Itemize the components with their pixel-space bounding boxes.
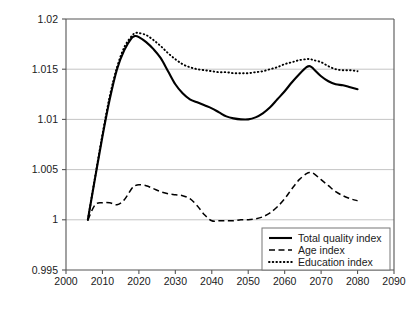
data-series-group — [88, 33, 358, 222]
legend-label-total-quality-index: Total quality index — [298, 232, 382, 244]
y-tick-label: 1.005 — [32, 163, 58, 175]
x-tick-label: 2050 — [237, 275, 261, 287]
x-axis-ticks: 2000201020202030204020502060207020802090 — [54, 270, 406, 287]
x-tick-label: 2000 — [54, 275, 78, 287]
legend-label-age-index: Age index — [298, 244, 345, 256]
y-tick-label: 1.015 — [32, 63, 58, 75]
x-tick-label: 2060 — [273, 275, 297, 287]
x-tick-label: 2070 — [309, 275, 333, 287]
chart-container: 0.99511.0051.011.0151.02 200020102020203… — [0, 0, 417, 313]
series-line-total-quality-index — [88, 36, 358, 220]
legend-label-education-index: Education index — [298, 256, 373, 268]
x-tick-label: 2010 — [91, 275, 115, 287]
series-line-age-index — [88, 173, 358, 222]
y-axis-ticks: 0.99511.0051.011.0151.02 — [32, 13, 66, 276]
x-tick-label: 2030 — [164, 275, 188, 287]
x-tick-label: 2020 — [127, 275, 151, 287]
line-chart: 0.99511.0051.011.0151.02 200020102020203… — [0, 0, 417, 313]
x-tick-label: 2090 — [382, 275, 406, 287]
y-tick-label: 0.995 — [32, 264, 58, 276]
x-tick-label: 2080 — [346, 275, 370, 287]
y-tick-label: 1.02 — [38, 13, 59, 25]
y-tick-label: 1.01 — [38, 113, 59, 125]
legend: Total quality index Age index Education … — [262, 228, 390, 270]
x-tick-label: 2040 — [200, 275, 224, 287]
y-tick-label: 1 — [52, 213, 58, 225]
series-line-education-index — [88, 33, 358, 220]
